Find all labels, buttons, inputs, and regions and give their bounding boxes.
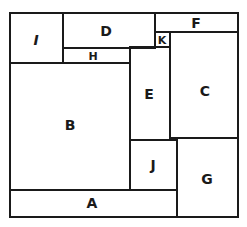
region-c-label: C xyxy=(200,83,210,99)
region-j-label: J xyxy=(149,157,155,173)
partition-diagram: I D H F K E C B J G A xyxy=(0,0,247,227)
region-f-label: F xyxy=(191,15,201,31)
region-e-label: E xyxy=(144,86,154,102)
region-i-label: I xyxy=(33,32,38,48)
region-a-label: A xyxy=(87,195,98,211)
region-b-label: B xyxy=(65,117,76,133)
region-d-label: D xyxy=(100,23,112,39)
region-g-label: G xyxy=(201,171,213,187)
region-h-label: H xyxy=(88,50,97,63)
region-k-label: K xyxy=(158,34,167,47)
